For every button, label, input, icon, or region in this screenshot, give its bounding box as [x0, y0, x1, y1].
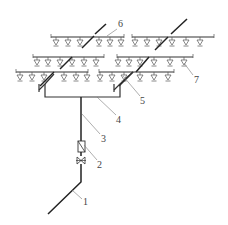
sprinkler-head-icon — [96, 37, 102, 46]
sprinkler-head-icon — [93, 57, 99, 66]
header-pipe — [45, 84, 120, 97]
sprinkler-head-icon — [126, 57, 132, 66]
sprinkler-head-icon — [137, 72, 143, 81]
sprinkler-head-icon — [151, 57, 157, 66]
branch-riser-pipe — [136, 57, 149, 72]
sprinkler-head-icon — [17, 72, 23, 81]
branch-middle-left — [33, 54, 104, 69]
sprinkler-head-icon — [165, 72, 171, 81]
sprinkler-head-icon — [167, 57, 173, 66]
sprinkler-head-icon — [97, 72, 103, 81]
branch-riser-pipe — [60, 57, 72, 69]
sprinkler-head-icon — [132, 37, 138, 46]
leader-line-3 — [82, 114, 100, 134]
callout-label-7: 7 — [194, 74, 199, 85]
callout-label-3: 3 — [101, 133, 106, 144]
callout-label-4: 4 — [116, 114, 121, 125]
callout-label-5: 5 — [140, 95, 145, 106]
branch-riser-pipe — [40, 72, 54, 86]
sprinkler-diagram: 1234567 — [0, 0, 228, 225]
callout-label-2: 2 — [97, 159, 102, 170]
sprinkler-head-icon — [197, 37, 203, 46]
leader-line-5 — [123, 76, 140, 96]
sprinkler-head-icon — [45, 57, 51, 66]
sprinkler-head-icon — [61, 72, 67, 81]
branch-riser-pipe — [82, 36, 94, 48]
sprinkler-head-icon — [107, 37, 113, 46]
sprinkler-head-icon — [115, 57, 121, 66]
sprinkler-head-icon — [65, 37, 71, 46]
branch-lower-right — [97, 69, 174, 86]
sprinkler-head-icon — [181, 57, 187, 66]
leader-line-6 — [107, 29, 117, 36]
branch-middle-right — [115, 54, 193, 72]
sprinkler-head-icon — [151, 72, 157, 81]
sprinkler-head-icon — [118, 37, 124, 46]
sprinkler-head-icon — [169, 37, 175, 46]
branch-upper-right — [132, 34, 214, 50]
sprinkler-head-icon — [53, 37, 59, 46]
callout-label-1: 1 — [83, 196, 88, 207]
upper-riser-pipe — [171, 19, 187, 34]
leader-line-7 — [184, 63, 193, 75]
branch-lower-left — [16, 69, 90, 86]
main-riser-assembly — [39, 72, 133, 214]
sprinkler-head-icon — [29, 72, 35, 81]
sprinkler-head-icon — [77, 37, 83, 46]
leader-line-4 — [97, 97, 116, 115]
sprinkler-head-icon — [57, 57, 63, 66]
supply-pipe — [48, 164, 81, 214]
sprinkler-head-icon — [109, 72, 115, 81]
sprinkler-head-icon — [183, 37, 189, 46]
branch-pipes — [16, 19, 214, 86]
branch-riser-pipe — [155, 37, 168, 50]
leader-line-2 — [84, 145, 97, 160]
sprinkler-head-icon — [144, 37, 150, 46]
branch-upper-left — [51, 34, 124, 48]
sprinkler-head-icon — [84, 72, 90, 81]
sprinkler-head-icon — [81, 57, 87, 66]
callout-label-6: 6 — [118, 18, 123, 29]
upper-riser-pipe — [95, 24, 106, 34]
sprinkler-head-icon — [73, 72, 79, 81]
leader-line-1 — [72, 190, 82, 199]
sprinkler-head-icon — [34, 57, 40, 66]
